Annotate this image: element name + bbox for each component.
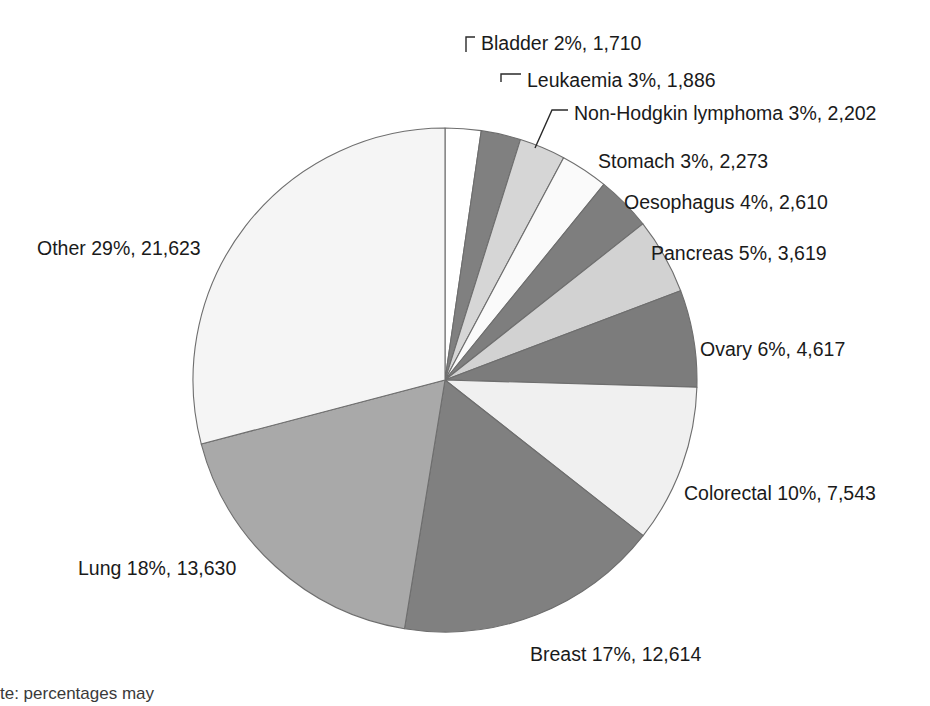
slice-label-other: Other 29%, 21,623 <box>37 237 201 259</box>
slice-label-breast: Breast 17%, 12,614 <box>530 643 701 665</box>
slice-label-bladder: Bladder 2%, 1,710 <box>481 32 642 54</box>
footnote-text: te: percentages may <box>0 684 155 703</box>
slice-label-lung: Lung 18%, 13,630 <box>78 557 236 579</box>
slice-label-ovary: Ovary 6%, 4,617 <box>700 338 845 360</box>
pie-chart: Bladder 2%, 1,710Leukaemia 3%, 1,886Non-… <box>0 0 930 706</box>
slice-label-colorectal: Colorectal 10%, 7,543 <box>684 482 876 504</box>
slice-label-leukaemia: Leukaemia 3%, 1,886 <box>527 69 716 91</box>
slice-label-stomach: Stomach 3%, 2,273 <box>598 150 768 172</box>
leader-line-leukaemia <box>501 74 521 82</box>
pie-slices <box>193 128 697 632</box>
slice-label-pancreas: Pancreas 5%, 3,619 <box>651 242 827 264</box>
leader-line-bladder <box>466 37 475 52</box>
slice-label-oesophagus: Oesophagus 4%, 2,610 <box>624 191 828 213</box>
slice-label-non-hodgkin-lymphoma: Non-Hodgkin lymphoma 3%, 2,202 <box>574 102 876 124</box>
chart-page: Bladder 2%, 1,710Leukaemia 3%, 1,886Non-… <box>0 0 930 706</box>
leader-line-non-hodgkin-lymphoma <box>535 110 568 148</box>
